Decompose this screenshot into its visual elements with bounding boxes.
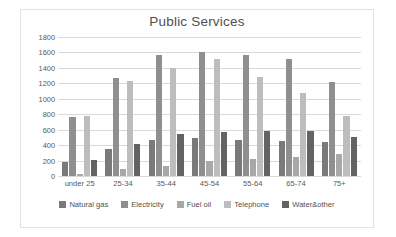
legend-label: Water&other (292, 200, 334, 209)
bar (91, 160, 97, 176)
bar (336, 154, 342, 176)
chart-container: Public Services 180016001400120010008006… (20, 9, 374, 228)
bar (243, 55, 249, 176)
x-axis-tick-label: 55-64 (243, 179, 262, 188)
bar (343, 116, 349, 176)
legend-item[interactable]: Natural gas (59, 200, 108, 209)
x-axis-tick-labels: under 2525-3435-4445-5455-6465-7475+ (58, 179, 361, 193)
bar-group (101, 37, 144, 176)
legend-item[interactable]: Fuel oil (177, 200, 211, 209)
bar-group (231, 37, 274, 176)
bar (113, 78, 119, 176)
bar (351, 137, 357, 176)
legend-item[interactable]: Telephone (224, 200, 269, 209)
bar (149, 140, 155, 176)
bar-group (188, 37, 231, 176)
y-axis-tick-label: 0 (23, 172, 55, 181)
y-axis-tick-label: 400 (23, 141, 55, 150)
bar (120, 169, 126, 176)
bar (322, 142, 328, 176)
y-axis-tick-label: 800 (23, 110, 55, 119)
bar (170, 68, 176, 176)
chart-legend: Natural gasElectricityFuel oilTelephoneW… (21, 200, 373, 209)
legend-label: Electricity (131, 200, 164, 209)
bar (127, 81, 133, 176)
bar-group (274, 37, 317, 176)
legend-swatch-icon (177, 201, 184, 208)
y-axis-tick-label: 1400 (23, 63, 55, 72)
bar (199, 52, 205, 176)
bar (279, 141, 285, 176)
bar (214, 59, 220, 176)
x-axis-tick-label: 25-34 (113, 179, 132, 188)
bar (77, 174, 83, 176)
bar (307, 131, 313, 176)
x-axis-tick-label: 35-44 (156, 179, 175, 188)
bar (293, 157, 299, 176)
x-axis-tick-label: 75+ (333, 179, 346, 188)
bar (329, 82, 335, 176)
bar (221, 132, 227, 176)
legend-label: Telephone (234, 200, 269, 209)
legend-swatch-icon (59, 201, 66, 208)
bar (105, 149, 111, 176)
legend-item[interactable]: Electricity (121, 200, 164, 209)
legend-swatch-icon (282, 201, 289, 208)
legend-label: Natural gas (69, 200, 108, 209)
x-axis-tick-label: 45-54 (200, 179, 219, 188)
plot-area (58, 37, 361, 176)
y-axis-tick-label: 1000 (23, 94, 55, 103)
x-axis-tick-label: 65-74 (286, 179, 305, 188)
bar (264, 131, 270, 176)
gridline (58, 176, 361, 177)
legend-label: Fuel oil (187, 200, 211, 209)
legend-swatch-icon (121, 201, 128, 208)
bar (69, 117, 75, 176)
bar (250, 159, 256, 176)
bar (163, 166, 169, 176)
legend-item[interactable]: Water&other (282, 200, 334, 209)
bar (156, 55, 162, 176)
bar (286, 59, 292, 176)
bar (257, 77, 263, 176)
bar (84, 116, 90, 176)
bar (62, 162, 68, 176)
y-axis-tick-label: 1600 (23, 48, 55, 57)
x-axis-tick-label: under 25 (65, 179, 95, 188)
y-axis-tick-label: 1800 (23, 33, 55, 42)
bar (192, 138, 198, 176)
y-axis-tick-label: 1200 (23, 79, 55, 88)
bar-group (318, 37, 361, 176)
bar-group (145, 37, 188, 176)
y-axis-tick-label: 200 (23, 156, 55, 165)
bar (235, 140, 241, 176)
y-axis-tick-label: 600 (23, 125, 55, 134)
bar (206, 161, 212, 176)
y-axis-tick-labels: 180016001400120010008006004002000 (21, 37, 55, 176)
bar (177, 134, 183, 176)
bar-group (58, 37, 101, 176)
bar (300, 93, 306, 176)
legend-swatch-icon (224, 201, 231, 208)
chart-title: Public Services (21, 14, 373, 29)
bar (134, 144, 140, 176)
